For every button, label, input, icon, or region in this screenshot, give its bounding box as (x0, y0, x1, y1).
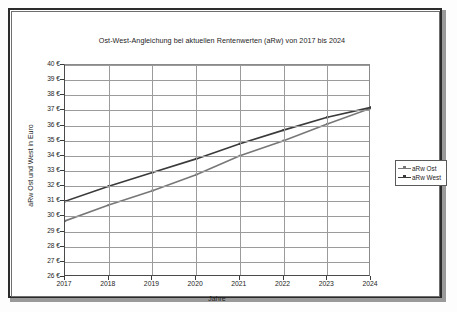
gridline-horizontal (65, 95, 369, 96)
x-axis-tick-mark (239, 276, 240, 280)
scanned-page: Ost-West-Angleichung bei aktuellen Rente… (0, 0, 457, 312)
chart-legend[interactable]: aRw OstaRw West (395, 160, 447, 186)
x-axis-tick-mark (283, 276, 284, 280)
x-axis-tick-label: 2017 (44, 280, 84, 287)
y-axis-tick-mark (60, 155, 64, 156)
x-axis-tick-label: 2022 (263, 280, 303, 287)
gridline-horizontal (65, 216, 369, 217)
gridline-vertical (109, 65, 110, 275)
y-axis-tick-label: 31 € (32, 196, 60, 203)
gridline-horizontal (65, 80, 369, 81)
gridline-vertical (327, 65, 328, 275)
plot-area (64, 64, 370, 276)
gridline-horizontal (65, 201, 369, 202)
x-axis-tick-labels: 20172018201920202021202220232024 (12, 280, 439, 294)
gridline-horizontal (65, 232, 369, 233)
y-axis-tick-label: 40 € (32, 60, 60, 67)
y-axis-tick-label: 30 € (32, 211, 60, 218)
y-axis-tick-mark (60, 140, 64, 141)
x-axis-tick-mark (108, 276, 109, 280)
gridline-horizontal (65, 186, 369, 187)
gridline-horizontal (65, 110, 369, 111)
gridline-vertical (240, 65, 241, 275)
gridline-horizontal (65, 262, 369, 263)
x-axis-tick-label: 2023 (306, 280, 346, 287)
y-axis-tick-label: 39 € (32, 75, 60, 82)
legend-swatch-icon (398, 165, 411, 173)
y-axis-tick-label: 29 € (32, 227, 60, 234)
gridline-horizontal (65, 156, 369, 157)
y-axis-tick-label: 38 € (32, 90, 60, 97)
x-axis-title: Jahre (64, 295, 370, 302)
gridline-vertical (196, 65, 197, 275)
x-axis-tick-label: 2024 (350, 280, 390, 287)
x-axis-tick-mark (151, 276, 152, 280)
y-axis-tick-mark (60, 215, 64, 216)
y-axis-tick-label: 32 € (32, 181, 60, 188)
gridline-horizontal (65, 247, 369, 248)
x-axis-tick-mark (370, 276, 371, 280)
y-axis-tick-label: 36 € (32, 121, 60, 128)
legend-swatch-icon (398, 174, 411, 182)
y-axis-tick-mark (60, 94, 64, 95)
y-axis-tick-label: 27 € (32, 257, 60, 264)
y-axis-tick-mark (60, 170, 64, 171)
y-axis-tick-mark (60, 125, 64, 126)
y-axis-tick-mark (60, 246, 64, 247)
y-axis-tick-label: 33 € (32, 166, 60, 173)
y-axis-tick-mark (60, 261, 64, 262)
legend-item-label: aRw Ost (412, 165, 437, 172)
legend-item-arw-ost[interactable]: aRw Ost (398, 164, 444, 173)
y-axis-tick-mark (60, 200, 64, 201)
x-axis-tick-mark (326, 276, 327, 280)
chart-area: Ost-West-Angleichung bei aktuellen Rente… (12, 12, 439, 296)
y-axis-tick-mark (60, 231, 64, 232)
gridline-horizontal (65, 141, 369, 142)
y-axis-tick-mark (60, 109, 64, 110)
legend-item-label: aRw West (412, 174, 441, 181)
x-axis-tick-label: 2018 (88, 280, 128, 287)
gridline-horizontal (65, 65, 369, 66)
x-axis-tick-mark (195, 276, 196, 280)
series-line-arw-west (65, 107, 371, 201)
gridline-horizontal (65, 126, 369, 127)
y-axis-tick-mark (60, 64, 64, 65)
y-axis-tick-label: 37 € (32, 105, 60, 112)
y-axis-tick-mark (60, 185, 64, 186)
chart-title: Ost-West-Angleichung bei aktuellen Rente… (72, 36, 372, 45)
y-axis-tick-mark (60, 79, 64, 80)
data-point-marker (65, 220, 66, 222)
legend-item-arw-west[interactable]: aRw West (398, 173, 444, 182)
x-axis-tick-mark (64, 276, 65, 280)
gridline-vertical (152, 65, 153, 275)
gridline-vertical (284, 65, 285, 275)
x-axis-tick-label: 2019 (131, 280, 171, 287)
y-axis-tick-label: 35 € (32, 136, 60, 143)
gridline-horizontal (65, 171, 369, 172)
x-axis-tick-label: 2020 (175, 280, 215, 287)
y-axis-tick-labels: 40 €39 €38 €37 €36 €35 €34 €33 €32 €31 €… (28, 12, 60, 296)
data-point-marker (370, 106, 371, 108)
x-axis-tick-label: 2021 (219, 280, 259, 287)
y-axis-tick-label: 26 € (32, 272, 60, 279)
y-axis-tick-label: 28 € (32, 242, 60, 249)
y-axis-tick-label: 34 € (32, 151, 60, 158)
